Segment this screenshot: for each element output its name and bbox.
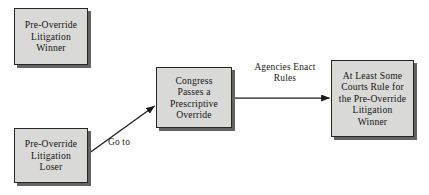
node-label: Pre-Override Litigation Loser xyxy=(18,138,84,172)
node-congress-passes-prescriptive-override[interactable]: Congress Passes a Prescriptive Override xyxy=(156,67,232,128)
edge-label-go-to: Go to xyxy=(108,137,144,148)
node-courts-rule-for-pre-override-litigation-winner[interactable]: At Least Some Courts Rule for the Pre-Ov… xyxy=(331,60,414,137)
node-label: At Least Some Courts Rule for the Pre-Ov… xyxy=(335,70,410,127)
edge-label-agencies-enact-rules: Agencies Enact Rules xyxy=(243,62,327,84)
flowchart-diagram: Pre-Override Litigation Winner Pre-Overr… xyxy=(0,0,429,195)
node-label: Congress Passes a Prescriptive Override xyxy=(160,75,228,121)
node-label: Pre-Override Litigation Winner xyxy=(18,19,84,53)
node-pre-override-litigation-loser[interactable]: Pre-Override Litigation Loser xyxy=(14,128,88,183)
node-pre-override-litigation-winner[interactable]: Pre-Override Litigation Winner xyxy=(14,8,88,65)
